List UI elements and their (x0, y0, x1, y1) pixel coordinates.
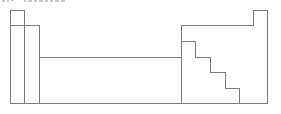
clipped-caption-glyphs (2, 0, 65, 2)
outer-outline (11, 11, 268, 104)
periodic-table-outline (0, 0, 281, 114)
metalloid-staircase (182, 42, 240, 104)
